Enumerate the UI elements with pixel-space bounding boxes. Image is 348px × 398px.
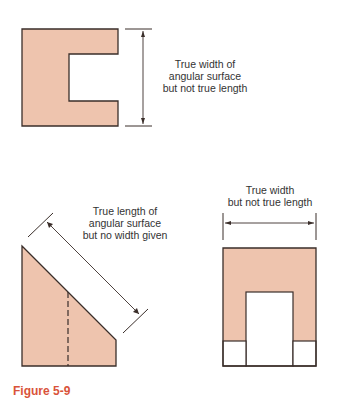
arrowhead-down: [141, 118, 145, 124]
label-true-width-angular: True width of angular surface but not tr…: [155, 58, 255, 94]
label-line: True width of: [155, 58, 255, 70]
label-line: but no width given: [75, 229, 175, 241]
c-shape-view: [22, 29, 118, 126]
label-line: but not true length: [155, 82, 255, 94]
label-line: but not true length: [219, 196, 321, 208]
label-line: True length of: [75, 205, 175, 217]
figure-caption: Figure 5-9: [13, 384, 70, 398]
label-line: angular surface: [155, 70, 255, 82]
u-view-bottom-left-block: [223, 341, 246, 366]
label-true-width: True width but not true length: [219, 184, 321, 208]
label-line: True width: [219, 184, 321, 196]
arrowhead-left: [225, 221, 231, 225]
arrowhead-right: [308, 221, 314, 225]
label-line: angular surface: [75, 217, 175, 229]
u-view-inner-opening: [246, 292, 293, 366]
label-true-length-angular: True length of angular surface but no wi…: [75, 205, 175, 241]
angled-surface-view: [22, 246, 116, 366]
u-view-bottom-right-block: [293, 341, 316, 366]
arrowhead-up: [141, 31, 145, 37]
